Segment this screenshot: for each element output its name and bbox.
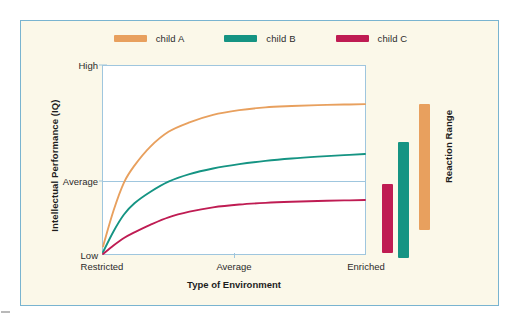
reaction-range-title: Reaction Range xyxy=(443,67,454,227)
reaction-range-bar-child-c xyxy=(382,184,393,253)
y-tick-high: High xyxy=(78,60,98,71)
y-axis-title: Intellectual Performance (IQ) xyxy=(49,71,60,261)
y-tick-average: Average xyxy=(63,175,98,186)
reaction-range-bar-child-b xyxy=(398,142,409,258)
series-line-child-b xyxy=(103,154,365,252)
figure-root: child A child B child C High Average Low… xyxy=(0,0,519,326)
y-tick-low: Low xyxy=(81,250,98,261)
plot-area xyxy=(102,65,366,255)
series-line-child-a xyxy=(103,104,365,246)
series-line-child-c xyxy=(103,200,365,254)
series-lines xyxy=(103,66,365,254)
x-tick-average: Average xyxy=(216,261,251,272)
plot-wrapper: High Average Low Intellectual Performanc… xyxy=(21,21,500,307)
x-tick-enriched: Enriched xyxy=(347,261,385,272)
page-corner-mark xyxy=(1,311,10,313)
x-tick-restricted: Restricted xyxy=(81,261,124,272)
chart-frame: child A child B child C High Average Low… xyxy=(20,20,499,306)
reaction-range-bar-child-a xyxy=(419,104,430,231)
x-axis-title: Type of Environment xyxy=(102,279,366,290)
